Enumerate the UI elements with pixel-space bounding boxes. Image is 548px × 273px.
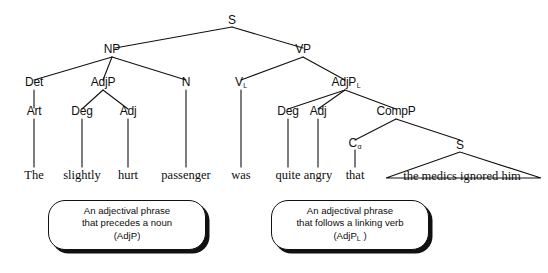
- callout-right-line3-pre: (AdjP: [333, 230, 356, 241]
- callout-left-line1: An adjectival phrase: [49, 205, 205, 217]
- word-embedded-clause: the medics ignored him: [403, 169, 521, 184]
- node-adj-vp: Adj: [310, 104, 327, 118]
- word-hurt: hurt: [118, 168, 138, 183]
- edge-np-n: [112, 57, 186, 80]
- node-adjp-vp: AdjPL: [332, 75, 361, 89]
- callout-left-line2: that precedes a noun: [49, 217, 205, 229]
- syntax-tree-diagram: S NP VP Det AdjP N Art Deg Adj VL AdjPL …: [0, 0, 548, 273]
- node-adjp-vp-subscript: L: [356, 82, 360, 89]
- callout-right-line1: An adjectival phrase: [272, 205, 428, 217]
- node-n: N: [182, 75, 190, 89]
- edge-compp-s: [396, 119, 460, 140]
- node-v-subscript: L: [243, 82, 247, 89]
- node-art: Art: [27, 104, 42, 118]
- word-was: was: [231, 168, 250, 183]
- node-det: Det: [25, 75, 43, 89]
- edge-s-np: [115, 27, 232, 48]
- callout-right-line3-post: ): [361, 230, 367, 241]
- word-that: that: [346, 168, 365, 183]
- callout-right-line2: that follows a linking verb: [272, 217, 428, 229]
- edge-s-vp: [232, 27, 303, 48]
- callout-left-line3: (AdjP): [49, 230, 205, 242]
- node-v-linking: VL: [235, 75, 247, 89]
- node-c-complementizer: Cα: [349, 136, 362, 150]
- node-np: NP: [104, 42, 120, 56]
- callout-adjp-follows-linking-verb: An adjectival phrase that follows a link…: [271, 200, 429, 250]
- callout-right-line3: (AdjPL ): [272, 230, 428, 245]
- word-passenger: passenger: [161, 168, 210, 183]
- node-deg-vp: Deg: [277, 104, 298, 118]
- node-compp: CompP: [376, 104, 415, 118]
- word-slightly: slightly: [63, 168, 101, 183]
- word-quite: quite: [276, 168, 301, 183]
- edge-vp-v: [241, 57, 303, 80]
- node-c-subscript: α: [357, 143, 361, 150]
- node-deg-np: Deg: [71, 104, 92, 118]
- callout-adjp-precedes-noun: An adjectival phrase that precedes a nou…: [48, 200, 206, 250]
- node-adj-np: Adj: [120, 104, 137, 118]
- node-adjp-vp-text: AdjP: [332, 75, 357, 89]
- word-angry: angry: [304, 168, 332, 183]
- node-vp: VP: [295, 42, 311, 56]
- node-adjp-np: AdjP: [91, 75, 116, 89]
- node-s-embedded: S: [456, 138, 464, 152]
- word-the: The: [24, 168, 43, 183]
- node-v-text: V: [235, 75, 243, 89]
- node-s-root: S: [228, 13, 236, 27]
